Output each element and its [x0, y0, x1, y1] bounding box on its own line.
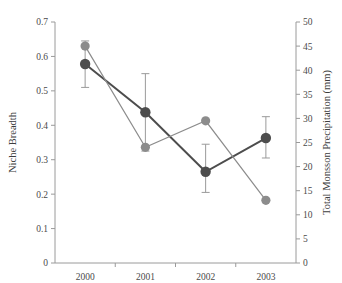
left-axis-tick-label: 0.7 [36, 17, 48, 27]
right-axis-tick-label: 15 [303, 186, 313, 196]
data-point [141, 143, 150, 152]
left-axis-tick-label: 0.2 [36, 190, 48, 200]
x-axis-tick-label: 2000 [76, 272, 95, 282]
series-line [85, 64, 266, 172]
chart-figure: 00.10.20.30.40.50.60.7051015202530354045… [0, 0, 342, 283]
data-point [261, 133, 271, 143]
right-axis-tick-label: 10 [303, 210, 313, 220]
left-axis-tick-label: 0.3 [36, 155, 48, 165]
right-axis-title: Total Monsson Precipitation (mm) [321, 70, 333, 215]
right-axis-tick-label: 5 [303, 234, 308, 244]
x-axis-tick-label: 2003 [256, 272, 275, 282]
right-axis-tick-label: 30 [303, 114, 313, 124]
right-axis-tick-label: 40 [303, 66, 313, 76]
data-point [80, 59, 90, 69]
left-axis-tick-label: 0.1 [36, 224, 48, 234]
data-point [261, 196, 270, 205]
data-point [81, 42, 90, 51]
series-precipitation [81, 42, 271, 205]
right-axis-tick-label: 25 [303, 138, 313, 148]
data-point [200, 167, 210, 177]
right-axis-tick-label: 0 [303, 258, 308, 268]
line-chart-canvas: 00.10.20.30.40.50.60.7051015202530354045… [0, 0, 342, 283]
data-point [201, 116, 210, 125]
right-axis-tick-label: 45 [303, 42, 313, 52]
left-axis-tick-label: 0.4 [36, 121, 48, 131]
right-axis-tick-label: 35 [303, 90, 313, 100]
left-axis-title: Niche Breadth [7, 111, 18, 173]
left-axis-tick-label: 0.5 [36, 86, 48, 96]
x-axis-tick-label: 2001 [136, 272, 155, 282]
series-line [85, 46, 266, 200]
right-axis-tick-label: 50 [303, 17, 313, 27]
x-axis-tick-label: 2002 [196, 272, 215, 282]
left-axis-tick-label: 0 [43, 258, 48, 268]
left-axis-tick-label: 0.6 [36, 52, 48, 62]
data-point [140, 107, 150, 117]
right-axis-tick-label: 20 [303, 162, 313, 172]
